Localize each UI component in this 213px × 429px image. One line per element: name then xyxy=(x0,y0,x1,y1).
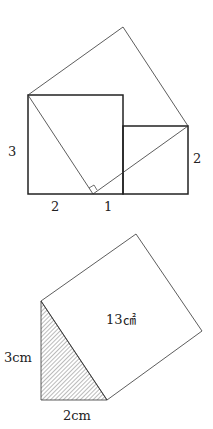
figure-1 xyxy=(28,27,188,194)
label-area: 13㎠ xyxy=(106,313,136,326)
diagram-canvas xyxy=(0,0,213,429)
label-height: 3cm xyxy=(4,351,32,364)
label-base: 2cm xyxy=(63,409,91,422)
label-side-2-right: 2 xyxy=(193,152,201,165)
small-square xyxy=(123,126,188,194)
label-bottom-1: 1 xyxy=(104,200,112,213)
label-side-3: 3 xyxy=(8,145,16,158)
tilted-square xyxy=(28,27,188,194)
large-square xyxy=(28,95,123,194)
label-bottom-2: 2 xyxy=(51,200,59,213)
